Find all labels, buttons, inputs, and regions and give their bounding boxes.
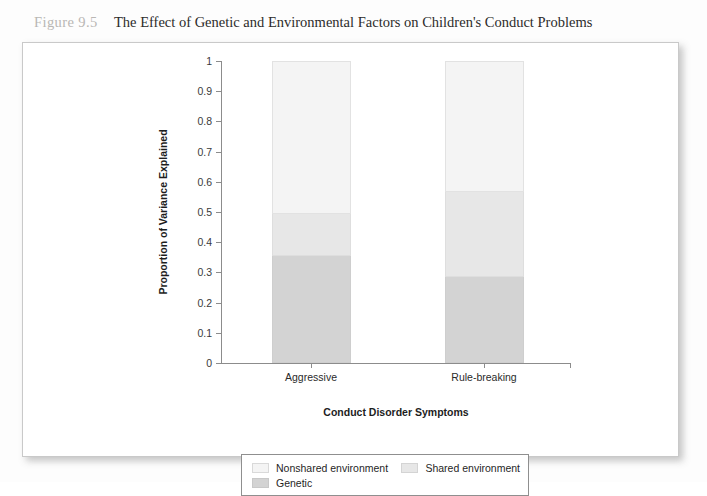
y-tick-label: 0.4 (197, 236, 212, 248)
y-tick (216, 333, 221, 334)
legend-item-nonshared: Nonshared environment (252, 462, 401, 474)
stacked-bar[interactable] (445, 61, 524, 363)
y-tick-label: 0.9 (197, 85, 212, 97)
y-tick-label: 0.1 (197, 327, 212, 339)
y-tick-label: 0.6 (197, 176, 212, 188)
legend-label-nonshared: Nonshared environment (276, 462, 388, 474)
legend-swatch-nonshared-icon (252, 463, 269, 473)
y-tick (216, 212, 221, 213)
legend-row-1: Nonshared environment Shared environment (252, 460, 520, 475)
stacked-bar[interactable] (272, 61, 351, 363)
y-tick-label: 1 (206, 55, 212, 67)
x-tick-end (570, 363, 571, 368)
y-axis-title: Proportion of Variance Explained (157, 129, 169, 294)
figure-title: The Effect of Genetic and Environmental … (114, 14, 592, 30)
legend-swatch-shared-icon (401, 463, 418, 473)
bar-segment-shared[interactable] (272, 214, 351, 256)
x-tick (484, 363, 485, 368)
y-tick-label: 0.8 (197, 115, 212, 127)
y-tick (216, 272, 221, 273)
x-category-label: Rule-breaking (451, 371, 516, 383)
figure-number: Figure 9.5 (34, 14, 98, 30)
figure-caption: Figure 9.5 The Effect of Genetic and Env… (34, 14, 687, 38)
x-axis-title: Conduct Disorder Symptoms (323, 406, 468, 418)
x-tick (311, 363, 312, 368)
y-tick-label: 0.2 (197, 297, 212, 309)
y-tick (216, 242, 221, 243)
chart-card: 00.10.20.30.40.50.60.70.80.91 Proportion… (22, 42, 679, 457)
y-tick-label: 0.3 (197, 266, 212, 278)
y-tick (216, 121, 221, 122)
legend-item-shared: Shared environment (401, 462, 520, 474)
legend-label-genetic: Genetic (276, 477, 312, 489)
legend-row-2: Genetic (252, 475, 520, 490)
y-tick-label: 0.7 (197, 146, 212, 158)
y-tick (216, 91, 221, 92)
bar-segment-shared[interactable] (445, 192, 524, 277)
y-tick (216, 152, 221, 153)
y-tick (216, 303, 221, 304)
y-tick-label: 0 (206, 357, 212, 369)
y-tick-label: 0.5 (197, 206, 212, 218)
chart-legend: Nonshared environment Shared environment… (241, 454, 529, 496)
bar-segment-nonshared[interactable] (445, 61, 524, 192)
x-category-label: Aggressive (285, 371, 337, 383)
bar-segment-genetic[interactable] (445, 277, 524, 363)
bar-segment-nonshared[interactable] (272, 61, 351, 214)
bar-segment-genetic[interactable] (272, 256, 351, 363)
y-tick (216, 363, 221, 364)
y-tick (216, 182, 221, 183)
x-axis-line (221, 363, 571, 364)
legend-item-genetic: Genetic (252, 477, 412, 489)
y-axis-line (221, 61, 222, 363)
legend-label-shared: Shared environment (425, 462, 520, 474)
y-tick (216, 61, 221, 62)
legend-swatch-genetic-icon (252, 478, 269, 488)
plot-area: 00.10.20.30.40.50.60.70.80.91 Proportion… (221, 61, 571, 363)
